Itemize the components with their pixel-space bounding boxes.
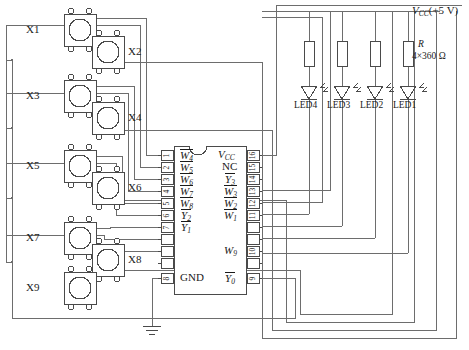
switch-label-x5: X5 <box>26 160 39 171</box>
ic-right-pin-label-11: W1 <box>224 209 237 223</box>
ic-pin-number-4: 4 <box>162 186 171 197</box>
circuit-diagram: X1 X2 X3 X4 X5 X6 X7 X8 X9 VCC(+5 V) R 4… <box>0 0 469 350</box>
led-label-led1: LED1 <box>393 101 416 111</box>
ic-pin-number-10: 10 <box>248 246 257 257</box>
ground-symbol-lines <box>143 326 161 334</box>
led-label-led2: LED2 <box>360 101 383 111</box>
vcc-rail-label: VCC(+5 V) <box>412 5 458 17</box>
resistor-value: 4×360 Ω <box>412 51 446 62</box>
led-label-led3: LED3 <box>327 101 350 111</box>
ic-pin-number-7: 7 <box>162 222 171 233</box>
ic-pin-number-14: 14 <box>248 174 257 185</box>
ic-pin-number-2: 2 <box>162 162 171 173</box>
pin16-vcc-wire <box>262 5 462 155</box>
ic-pin-number-8: 8 <box>162 273 171 284</box>
vcc-subscript: CC <box>419 9 429 18</box>
ic-pin-number-9: 9 <box>248 273 257 284</box>
resistor-designator: R <box>418 39 424 50</box>
ic-pin-number-5: 5 <box>162 198 171 209</box>
switch-label-x9: X9 <box>26 282 39 293</box>
ic-pin-number-1: 1 <box>162 150 171 161</box>
switch-label-x4: X4 <box>128 112 141 123</box>
pin9-y0-wire <box>12 278 295 318</box>
ic-left-pin-label-7: Y1 <box>181 221 191 235</box>
switch-label-x6: X6 <box>128 182 141 193</box>
gnd-wire <box>152 278 158 326</box>
led-to-ic-wires <box>262 214 408 253</box>
vcc-suffix: (+5 V) <box>429 4 459 16</box>
ic-pin-number-3: 3 <box>162 174 171 185</box>
led-label-led4: LED4 <box>294 101 317 111</box>
ic-pin-number-6: 6 <box>162 210 171 221</box>
switch-label-x1: X1 <box>26 24 39 35</box>
ic-pin-number-12: 12 <box>248 198 257 209</box>
ic-pin-number-16: 16 <box>248 150 257 161</box>
ic-right-pin-label-15: NC <box>222 161 237 172</box>
ic-pin-number-15: 15 <box>248 162 257 173</box>
switch-label-x7: X7 <box>26 232 39 243</box>
ic-left-pin-label-8: GND <box>180 272 204 283</box>
ic-right-pin-label-10: W9 <box>224 245 237 257</box>
switch-label-x3: X3 <box>26 90 39 101</box>
resistor-led-wires <box>309 66 408 253</box>
switch-bodies <box>64 8 124 309</box>
vcc-symbol: V <box>412 4 419 16</box>
switch-label-x2: X2 <box>128 46 141 57</box>
resistor-bodies <box>304 41 413 66</box>
ic-pin-number-13: 13 <box>248 186 257 197</box>
switch-return-bus <box>6 60 12 318</box>
ic-pin-number-11: 11 <box>248 210 257 221</box>
switch-label-x8: X8 <box>128 254 141 265</box>
ic-right-pin-label-9: Y0 <box>225 272 235 286</box>
